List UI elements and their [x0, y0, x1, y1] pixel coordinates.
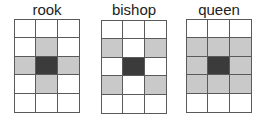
- move-square: [102, 76, 123, 94]
- move-grid: [186, 19, 252, 113]
- move-square: [208, 38, 229, 56]
- move-square: [145, 39, 166, 57]
- empty-square: [145, 95, 166, 113]
- move-square: [230, 75, 251, 93]
- piece-square: [123, 58, 144, 76]
- panel-title: bishop: [101, 1, 167, 18]
- empty-square: [123, 21, 144, 39]
- empty-square: [145, 58, 166, 76]
- move-square: [102, 39, 123, 57]
- piece-square: [36, 57, 57, 75]
- empty-square: [36, 20, 57, 38]
- empty-square: [58, 75, 79, 93]
- empty-square: [208, 20, 229, 38]
- move-square: [36, 38, 57, 56]
- move-square: [208, 75, 229, 93]
- empty-square: [102, 58, 123, 76]
- empty-square: [15, 38, 36, 56]
- move-square: [230, 38, 251, 56]
- move-square: [36, 75, 57, 93]
- move-grid: [101, 20, 167, 114]
- empty-square: [15, 94, 36, 112]
- move-square: [230, 57, 251, 75]
- panel-title: queen: [186, 1, 252, 18]
- empty-square: [15, 75, 36, 93]
- empty-square: [15, 20, 36, 38]
- empty-square: [102, 95, 123, 113]
- move-square: [145, 76, 166, 94]
- empty-square: [230, 20, 251, 38]
- empty-square: [102, 21, 123, 39]
- empty-square: [123, 76, 144, 94]
- move-square: [187, 57, 208, 75]
- empty-square: [123, 95, 144, 113]
- empty-square: [230, 94, 251, 112]
- empty-square: [58, 20, 79, 38]
- piece-square: [208, 57, 229, 75]
- empty-square: [187, 94, 208, 112]
- empty-square: [58, 94, 79, 112]
- empty-square: [36, 94, 57, 112]
- empty-square: [208, 94, 229, 112]
- empty-square: [145, 21, 166, 39]
- empty-square: [123, 39, 144, 57]
- panel-title: rook: [14, 1, 80, 18]
- move-square: [187, 75, 208, 93]
- move-square: [187, 38, 208, 56]
- move-grid: [14, 19, 80, 113]
- empty-square: [58, 38, 79, 56]
- empty-square: [187, 20, 208, 38]
- move-square: [58, 57, 79, 75]
- move-square: [15, 57, 36, 75]
